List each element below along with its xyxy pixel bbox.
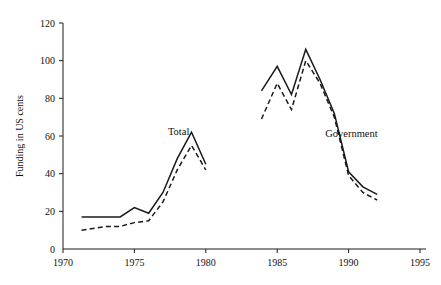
y-tick-label: 80 [45, 93, 55, 104]
series-line-total-solid [82, 132, 206, 217]
y-tick-label: 100 [40, 55, 55, 66]
y-tick-label: 120 [40, 18, 55, 29]
chart-tick-labels: 020406080100120197019751980198519901995 [40, 18, 430, 269]
y-tick-label: 20 [45, 206, 55, 217]
chart-series-group [82, 49, 378, 230]
y-tick-label: 0 [50, 244, 55, 255]
x-tick-label: 1990 [339, 257, 359, 268]
y-tick-label: 60 [45, 131, 55, 142]
chart-container: 020406080100120197019751980198519901995 … [0, 0, 441, 285]
x-tick-label: 1975 [124, 257, 144, 268]
chart-annotations: TotalGovernment [168, 126, 378, 139]
series-annotation-government: Government [325, 128, 378, 139]
x-tick-label: 1985 [267, 257, 287, 268]
line-chart: 020406080100120197019751980198519901995 … [0, 0, 441, 285]
chart-axis-titles: Funding in US cents [14, 95, 25, 177]
series-annotation-total: Total [168, 126, 190, 137]
series-line-government-solid [261, 49, 377, 194]
y-axis-title: Funding in US cents [14, 95, 25, 177]
x-tick-label: 1970 [53, 257, 73, 268]
y-tick-label: 40 [45, 168, 55, 179]
x-tick-label: 1980 [196, 257, 216, 268]
x-tick-label: 1995 [410, 257, 430, 268]
